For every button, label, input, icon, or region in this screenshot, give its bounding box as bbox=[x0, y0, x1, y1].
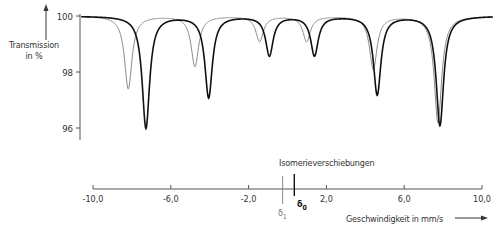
x-tick-label: 2,0 bbox=[320, 194, 333, 204]
y-axis-label-line2: in % bbox=[4, 51, 64, 62]
y-axis-label: Transmission in % bbox=[4, 40, 64, 62]
arrow-right-icon bbox=[481, 216, 488, 221]
annotation-isomer-shifts: Isomerieverschiebungen bbox=[279, 158, 374, 168]
delta1-label: δ1 bbox=[278, 208, 287, 221]
x-tick-label: -10,0 bbox=[83, 194, 104, 204]
y-tick-label: 96 bbox=[62, 123, 73, 134]
delta1-subscript: 1 bbox=[283, 213, 287, 221]
x-tick-label: -6,0 bbox=[163, 194, 179, 204]
y-tick-label: 98 bbox=[62, 67, 73, 78]
spectrum-delta0-curve bbox=[81, 17, 493, 129]
moessbauer-chart: 1009896-10,0-6,0-2,02,06,010,0 Transmiss… bbox=[0, 0, 501, 234]
x-tick-label: 6,0 bbox=[398, 194, 411, 204]
arrow-up-icon bbox=[44, 4, 49, 11]
y-tick-label: 100 bbox=[57, 11, 73, 22]
y-axis-label-line1: Transmission bbox=[4, 40, 64, 51]
delta0-label: δ0 bbox=[297, 199, 307, 212]
delta0-subscript: 0 bbox=[302, 204, 306, 212]
x-axis-label: Geschwindigkeit in mm/s bbox=[346, 214, 443, 224]
x-tick-label: -2,0 bbox=[241, 194, 257, 204]
chart-canvas: 1009896-10,0-6,0-2,02,06,010,0 bbox=[0, 0, 501, 234]
x-tick-label: 10,0 bbox=[473, 194, 491, 204]
